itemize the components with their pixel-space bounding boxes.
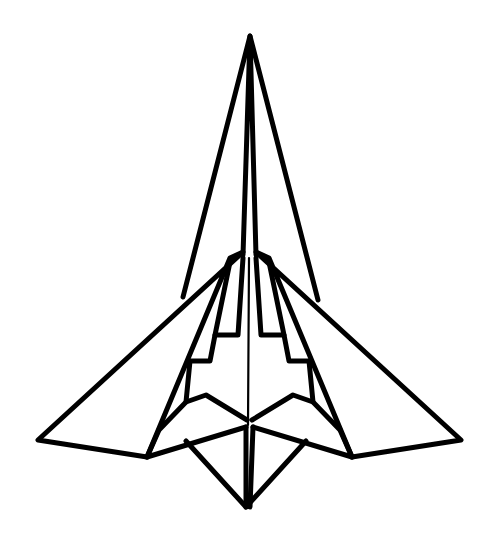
- nose-spire: [183, 36, 318, 300]
- right-inner-panels: [252, 258, 352, 457]
- left-inner-panels: [147, 258, 247, 457]
- airplane-drawing: [0, 0, 489, 545]
- airplane-illustration: Paper airplane line drawing: [0, 0, 489, 545]
- center-fold-line: [248, 258, 249, 425]
